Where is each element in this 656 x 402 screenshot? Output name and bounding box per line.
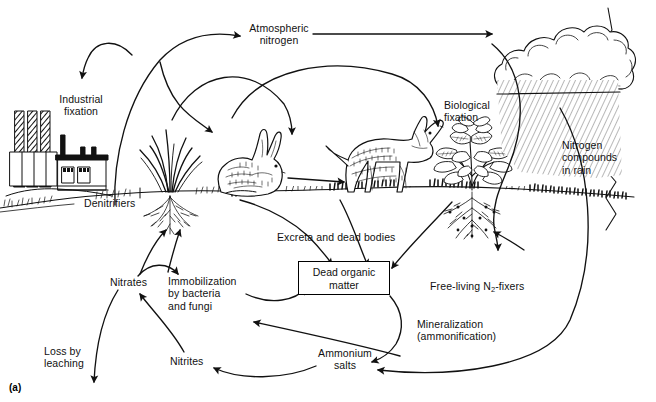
- arrow-industrial-fixation: [82, 43, 132, 78]
- grass-roots: [144, 196, 198, 234]
- arrow-atmosphere-down-rabbit: [172, 77, 292, 134]
- arrow-plant-litter-to-dom: [392, 202, 452, 268]
- box-dead-organic-matter: Dead organic matter: [298, 261, 390, 295]
- panel-label: (a): [9, 382, 21, 393]
- arrow-atmosphere-down-left: [160, 62, 212, 132]
- grass-clump-icon: [140, 130, 202, 234]
- factory-icon: [6, 111, 112, 196]
- label-nitrogen-compounds-in-rain: Nitrogen compounds in rain: [562, 139, 634, 176]
- arrow-atmosphere-down-fox: [232, 66, 438, 126]
- label-free-living-n2-fixers: Free-living N2-fixers: [418, 268, 524, 309]
- legume-roots: [444, 192, 500, 239]
- label-immobilization: Immobilization by bacteria and fungi: [168, 275, 248, 312]
- turf-band: [232, 179, 626, 199]
- label-nitrites: Nitrites: [170, 355, 203, 367]
- label-excreta-and-dead-bodies: Excreta and dead bodies: [277, 231, 395, 243]
- label-biological-fixation: Biological fixation: [444, 99, 510, 124]
- fox-icon: [326, 117, 443, 192]
- nitrogen-cycle-figure: Atmospheric nitrogen Industrial fixation…: [0, 0, 656, 402]
- arrow-rabbit-to-fox: [288, 178, 344, 182]
- label-atmospheric-nitrogen: Atmospheric nitrogen: [243, 22, 315, 47]
- label-mineralization: Mineralization (ammonification): [417, 318, 513, 343]
- label-nitrates: Nitrates: [110, 276, 147, 288]
- free-living-prefix: Free-living N: [430, 280, 491, 292]
- arrow-immobilized-to-dom: [246, 288, 306, 301]
- label-denitrifiers: Denitrifiers: [84, 197, 135, 209]
- arrow-nitrification-1: [214, 366, 316, 377]
- label-industrial-fixation: Industrial fixation: [48, 93, 114, 118]
- label-ammonium-salts: Ammonium salts: [316, 347, 374, 372]
- free-living-suffix: -fixers: [495, 280, 524, 292]
- arrow-plant-uptake: [140, 230, 166, 274]
- rabbit-icon: [218, 130, 285, 197]
- arrow-root-uptake-2: [168, 230, 180, 272]
- legume-plant-icon: [434, 117, 512, 239]
- label-loss-by-leaching: Loss by leaching: [44, 345, 104, 370]
